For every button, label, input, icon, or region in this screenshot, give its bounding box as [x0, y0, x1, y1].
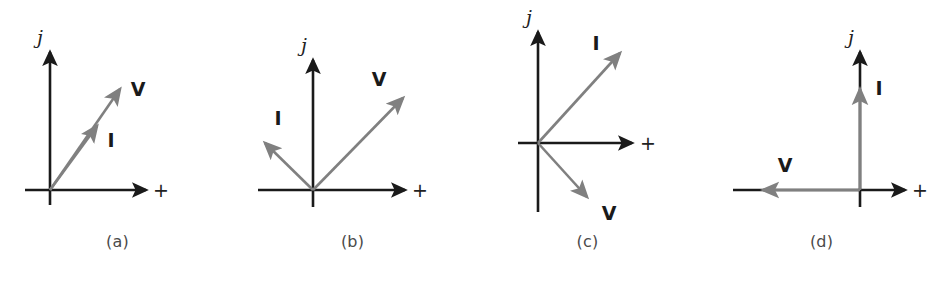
vector-label-v: V — [778, 154, 793, 176]
axis-label-j: j — [33, 26, 43, 48]
axis-label-j: j — [297, 34, 307, 56]
vector-label-i: I — [592, 32, 599, 54]
panel-caption-b: (b) — [235, 232, 470, 251]
vector-label-v: V — [602, 202, 617, 224]
axis-label-plus: + — [412, 179, 428, 201]
vector-i — [50, 126, 97, 190]
axis-label-plus: + — [912, 179, 928, 201]
vector-i — [538, 53, 620, 143]
panel-caption-c: (c) — [470, 232, 705, 251]
vector-label-i: I — [274, 107, 281, 129]
vector-label-i: I — [107, 129, 114, 151]
axis-label-j: j — [844, 26, 854, 48]
panel-d-diagram: j + I V — [705, 0, 938, 230]
panel-caption-a: (a) — [0, 232, 235, 251]
vector-label-i: I — [875, 77, 882, 99]
axis-label-j: j — [522, 6, 532, 28]
panel-a-diagram: j + V I — [0, 0, 235, 230]
vector-i — [265, 143, 313, 190]
panel-b: j + V I (b) — [235, 0, 470, 288]
vector-v — [313, 98, 403, 190]
panel-a: j + V I (a) — [0, 0, 235, 288]
panel-c: j + I V (c) — [470, 0, 705, 288]
axis-label-plus: + — [640, 132, 656, 154]
vector-label-v: V — [131, 78, 146, 100]
panel-c-diagram: j + I V — [470, 0, 705, 230]
panel-caption-d: (d) — [705, 232, 938, 251]
panel-d: j + I V (d) — [705, 0, 938, 288]
phasor-diagram-figure: j + V I (a) j + V — [0, 0, 938, 288]
vector-v — [538, 143, 587, 197]
panel-b-diagram: j + V I — [235, 0, 470, 230]
axis-label-plus: + — [153, 179, 169, 201]
vector-label-v: V — [372, 68, 387, 90]
